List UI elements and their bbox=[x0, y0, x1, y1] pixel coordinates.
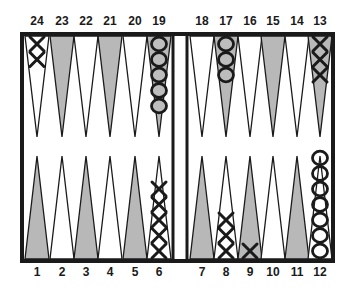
checker-o[interactable] bbox=[219, 68, 234, 82]
backgammon-board: 242322212019181716151413123456789101112 bbox=[0, 0, 354, 295]
checker-o[interactable] bbox=[219, 53, 234, 67]
checker-o[interactable] bbox=[219, 37, 234, 51]
checker-o[interactable] bbox=[152, 68, 167, 82]
checker-o[interactable] bbox=[152, 99, 167, 113]
checker-o[interactable] bbox=[152, 37, 167, 51]
checker-o[interactable] bbox=[152, 53, 167, 67]
board-svg bbox=[0, 0, 354, 295]
checker-o[interactable] bbox=[152, 84, 167, 98]
